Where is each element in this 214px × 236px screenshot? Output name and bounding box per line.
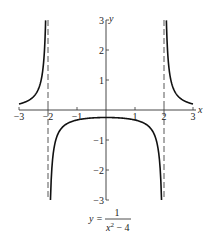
x-tick-label: 2 [162, 111, 167, 122]
x-tick-label: −1 [72, 111, 83, 122]
curve-left-branch [19, 20, 46, 104]
axes [19, 20, 196, 200]
y-axis-label: y [108, 13, 114, 24]
y-tick-label: −2 [93, 165, 104, 176]
caption-lhs: y = [88, 213, 103, 224]
denominator-rest: − 4 [114, 222, 130, 233]
caption-numerator: 1 [115, 207, 120, 218]
x-tick-label: −3 [14, 111, 25, 122]
y-tick-label: −1 [93, 135, 104, 146]
tick-labels: −3−2−1123−3−2−1123xy [14, 13, 203, 206]
caption-denominator: x2 − 4 [105, 221, 130, 233]
y-tick-label: 1 [99, 75, 104, 86]
x-axis-label: x [197, 104, 203, 115]
x-tick-label: 3 [191, 111, 196, 122]
x-tick-label: −2 [43, 111, 54, 122]
function-caption: y = 1 x2 − 4 [0, 203, 214, 236]
function-plot: −3−2−1123−3−2−1123xy [0, 0, 214, 236]
curve-right-branch [166, 20, 193, 104]
y-tick-label: 2 [99, 45, 104, 56]
x-tick-label: 1 [133, 111, 138, 122]
y-tick-label: 3 [99, 15, 104, 26]
